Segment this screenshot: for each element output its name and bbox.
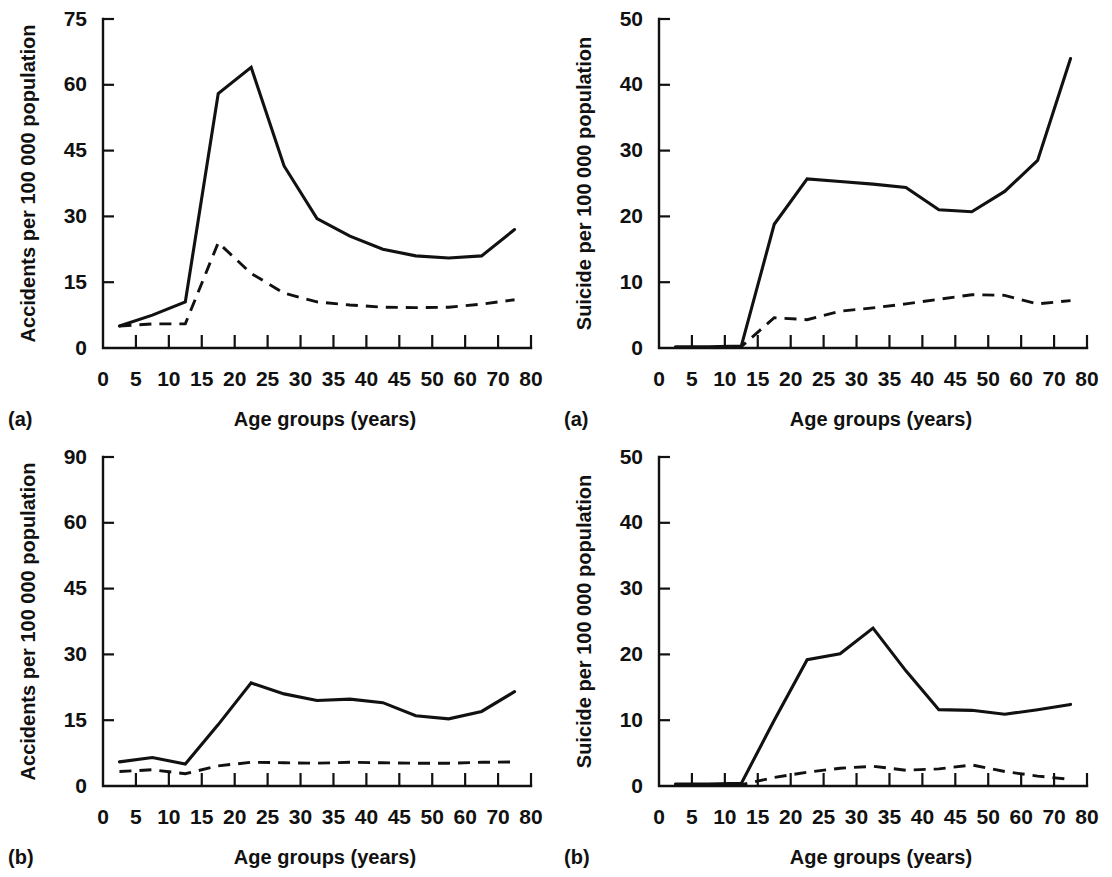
series-group-suicide-a — [675, 58, 1070, 347]
x-tick-label-50: 50 — [421, 367, 444, 390]
x-tick-label-60: 60 — [453, 367, 476, 390]
x-tick-label-45: 45 — [944, 367, 968, 390]
x-tick-label-30: 30 — [289, 805, 312, 828]
x-tick-label-30: 30 — [845, 367, 868, 390]
x-tick-label-35: 35 — [322, 367, 346, 390]
x-tick-label-50: 50 — [977, 805, 1000, 828]
x-axis-title: Age groups (years) — [790, 846, 972, 868]
y-tick-label-30: 30 — [64, 204, 87, 227]
x-tick-label-15: 15 — [190, 805, 214, 828]
y-tick-label-15: 15 — [64, 270, 88, 293]
x-tick-label-80: 80 — [519, 367, 542, 390]
x-tick-label-40: 40 — [355, 805, 378, 828]
x-tick-label-35: 35 — [878, 367, 902, 390]
x-tick-label-20: 20 — [779, 805, 802, 828]
x-axis-title: Age groups (years) — [234, 408, 416, 430]
y-tick-label-0: 0 — [631, 336, 643, 359]
axis-frame — [659, 457, 1087, 786]
y-tick-label-50: 50 — [620, 7, 643, 30]
x-tick-label-35: 35 — [878, 805, 902, 828]
y-tick-label-60: 60 — [64, 72, 87, 95]
x-tick-label-25: 25 — [256, 805, 280, 828]
x-tick-label-45: 45 — [388, 367, 412, 390]
panel-label: (a) — [8, 408, 32, 430]
y-axis-title: Accidents per 100 000 population — [17, 463, 39, 781]
y-tick-label-60: 60 — [64, 510, 87, 533]
y-tick-label-75: 75 — [64, 7, 88, 30]
x-tick-label-10: 10 — [713, 805, 736, 828]
panel-label: (a) — [564, 408, 588, 430]
x-tick-label-10: 10 — [157, 805, 180, 828]
y-axis-title: Accidents per 100 000 population — [17, 25, 39, 343]
y-tick-label-40: 40 — [620, 72, 643, 95]
series-line-solid — [119, 67, 514, 326]
x-tick-label-60: 60 — [1009, 367, 1032, 390]
y-tick-label-30: 30 — [620, 576, 643, 599]
x-tick-label-80: 80 — [1075, 367, 1098, 390]
y-tick-label-10: 10 — [620, 708, 643, 731]
y-tick-label-30: 30 — [620, 138, 643, 161]
chart-svg-accidents-a: 0153045607505101520253035404550607080Acc… — [0, 0, 556, 438]
x-tick-label-60: 60 — [1009, 805, 1032, 828]
chart-panel-accidents-b: 0153045609005101520253035404550607080Acc… — [0, 438, 556, 876]
x-tick-label-35: 35 — [322, 805, 346, 828]
axes-group-suicide-b: 0102030405005101520253035404550607080 — [620, 445, 1099, 828]
x-tick-label-60: 60 — [453, 805, 476, 828]
x-tick-label-20: 20 — [779, 367, 802, 390]
x-tick-label-25: 25 — [812, 805, 836, 828]
x-tick-label-15: 15 — [746, 367, 770, 390]
figure-grid: 0153045607505101520253035404550607080Acc… — [0, 0, 1112, 877]
x-tick-label-40: 40 — [911, 805, 934, 828]
x-tick-label-25: 25 — [812, 367, 836, 390]
y-tick-label-0: 0 — [631, 774, 643, 797]
x-tick-label-20: 20 — [223, 367, 246, 390]
x-tick-label-20: 20 — [223, 805, 246, 828]
y-tick-label-15: 15 — [64, 708, 88, 731]
x-tick-label-15: 15 — [190, 367, 214, 390]
y-tick-label-0: 0 — [75, 774, 87, 797]
x-tick-label-10: 10 — [157, 367, 180, 390]
x-tick-label-80: 80 — [1075, 805, 1098, 828]
y-tick-label-40: 40 — [620, 510, 643, 533]
x-tick-label-70: 70 — [1042, 805, 1065, 828]
x-tick-label-45: 45 — [944, 805, 968, 828]
x-axis-title: Age groups (years) — [234, 846, 416, 868]
x-tick-label-5: 5 — [686, 367, 698, 390]
chart-panel-suicide-a: 0102030405005101520253035404550607080Sui… — [556, 0, 1112, 438]
y-tick-label-90: 90 — [64, 445, 87, 468]
x-tick-label-50: 50 — [977, 367, 1000, 390]
series-line-dashed — [119, 243, 514, 326]
x-tick-label-10: 10 — [713, 367, 736, 390]
axes-group-accidents-b: 0153045609005101520253035404550607080 — [64, 445, 543, 828]
x-tick-label-5: 5 — [130, 805, 142, 828]
x-tick-label-80: 80 — [519, 805, 542, 828]
x-tick-label-30: 30 — [845, 805, 868, 828]
series-line-solid — [675, 58, 1070, 346]
series-group-suicide-b — [675, 628, 1070, 785]
x-tick-label-25: 25 — [256, 367, 280, 390]
x-tick-label-5: 5 — [130, 367, 142, 390]
y-tick-label-0: 0 — [75, 336, 87, 359]
x-tick-label-15: 15 — [746, 805, 770, 828]
y-tick-label-10: 10 — [620, 270, 643, 293]
x-tick-label-0: 0 — [653, 805, 665, 828]
x-axis-title: Age groups (years) — [790, 408, 972, 430]
y-axis-title: Suicide per 100 000 population — [573, 475, 595, 768]
x-tick-label-40: 40 — [355, 367, 378, 390]
x-tick-label-70: 70 — [1042, 367, 1065, 390]
y-tick-label-45: 45 — [64, 576, 88, 599]
series-group-accidents-b — [119, 683, 514, 774]
series-group-accidents-a — [119, 67, 514, 326]
panel-label: (b) — [564, 846, 590, 868]
chart-panel-suicide-b: 0102030405005101520253035404550607080Sui… — [556, 438, 1112, 876]
x-tick-label-45: 45 — [388, 805, 412, 828]
y-tick-label-45: 45 — [64, 138, 88, 161]
y-tick-label-30: 30 — [64, 642, 87, 665]
chart-svg-suicide-a: 0102030405005101520253035404550607080Sui… — [556, 0, 1112, 438]
y-tick-label-20: 20 — [620, 642, 643, 665]
x-tick-label-30: 30 — [289, 367, 312, 390]
axis-frame — [103, 19, 531, 348]
panel-label: (b) — [8, 846, 34, 868]
x-tick-label-0: 0 — [97, 805, 109, 828]
series-line-solid — [119, 683, 514, 764]
